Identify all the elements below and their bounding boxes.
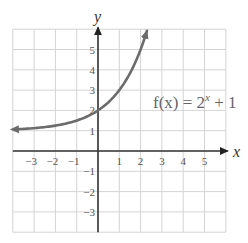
x-axis-label: x <box>232 143 240 160</box>
y-tick-label: −3 <box>83 206 95 218</box>
y-tick-label: 3 <box>90 84 96 96</box>
x-tick-label: 3 <box>159 155 165 167</box>
y-axis-label: y <box>92 8 102 26</box>
y-tick-label: −1 <box>83 165 95 177</box>
x-tick-label: 5 <box>202 155 208 167</box>
y-tick-label: 5 <box>90 44 96 56</box>
function-graph: −3−2−11234554321−1−2−3 x y f(x) = 2x + 1 <box>0 0 248 243</box>
x-tick-label: 1 <box>117 155 123 167</box>
grid-lines <box>13 29 226 232</box>
function-label-base: f(x) = 2 <box>153 93 205 112</box>
x-tick-label: −3 <box>25 155 37 167</box>
x-tick-label: 2 <box>138 155 144 167</box>
curve-left-arrow-icon <box>10 125 19 133</box>
x-tick-label: −1 <box>68 155 80 167</box>
y-tick-label: −2 <box>83 186 95 198</box>
function-label: f(x) = 2x + 1 <box>153 91 237 112</box>
y-tick-label: 4 <box>90 64 96 76</box>
function-curve <box>10 31 147 133</box>
x-tick-label: 4 <box>180 155 186 167</box>
x-tick-label: −2 <box>47 155 59 167</box>
y-tick-label: 1 <box>90 125 96 137</box>
function-label-suffix: + 1 <box>210 93 237 112</box>
axes <box>13 27 228 232</box>
